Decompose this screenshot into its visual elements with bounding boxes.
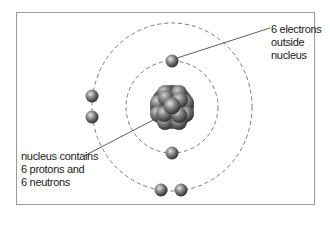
nucleus-label-line: nucleus contains	[21, 150, 98, 163]
electron	[175, 184, 188, 197]
electrons-leader-line	[177, 28, 270, 58]
electrons-label-line: nucleus	[271, 49, 322, 62]
electrons-label: 6 electrons outside nucleus	[271, 23, 322, 62]
electron	[155, 184, 168, 197]
nucleus	[150, 85, 194, 130]
electron	[86, 111, 99, 124]
electron	[166, 55, 179, 68]
nucleus-label-line: 6 neutrons	[21, 176, 98, 189]
nucleus-label-line: 6 protons and	[21, 163, 98, 176]
electron	[166, 147, 179, 160]
electrons-label-line: outside	[271, 36, 322, 49]
nucleus-label: nucleus contains 6 protons and 6 neutron…	[21, 150, 98, 189]
electron	[86, 90, 99, 103]
electrons-label-line: 6 electrons	[271, 23, 322, 36]
